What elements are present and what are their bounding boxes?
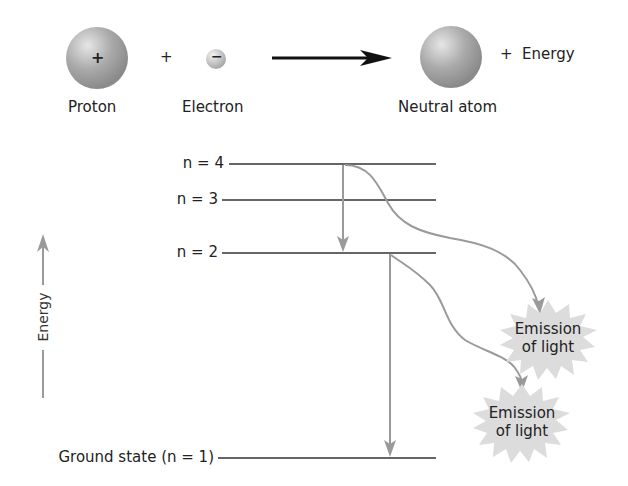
- energy-axis-label: Energy: [35, 292, 51, 342]
- emission-label-line1: Emission: [503, 320, 593, 338]
- proton-label: Proton: [68, 98, 116, 116]
- photon-wave-lower: [391, 255, 522, 383]
- transition-arrow-2-to-1: [384, 254, 396, 457]
- emission-label-line2: of light: [477, 422, 567, 440]
- neutral-atom-label: Neutral atom: [398, 98, 497, 116]
- transition-arrow-4-to-2: [337, 165, 349, 252]
- emission-label-line1: Emission: [477, 404, 567, 422]
- proton-charge-symbol: +: [91, 48, 104, 67]
- level-label-ground-state: Ground state (n = 1): [58, 448, 214, 466]
- emission-label-1: Emission of light: [503, 320, 593, 356]
- plus-sign: +: [160, 48, 173, 66]
- level-label-n4: n = 4: [183, 154, 224, 172]
- level-label-n3: n = 3: [177, 190, 218, 208]
- photon-wave-upper: [345, 165, 538, 305]
- electron-charge-symbol: −: [211, 48, 223, 64]
- emission-label-line2: of light: [503, 338, 593, 356]
- level-label-n2: n = 2: [177, 243, 218, 261]
- neutral-atom-sphere: [420, 26, 482, 88]
- reaction-arrow-icon: [272, 50, 392, 66]
- emission-label-2: Emission of light: [477, 404, 567, 440]
- energy-term: + Energy: [500, 45, 575, 63]
- electron-label: Electron: [182, 98, 244, 116]
